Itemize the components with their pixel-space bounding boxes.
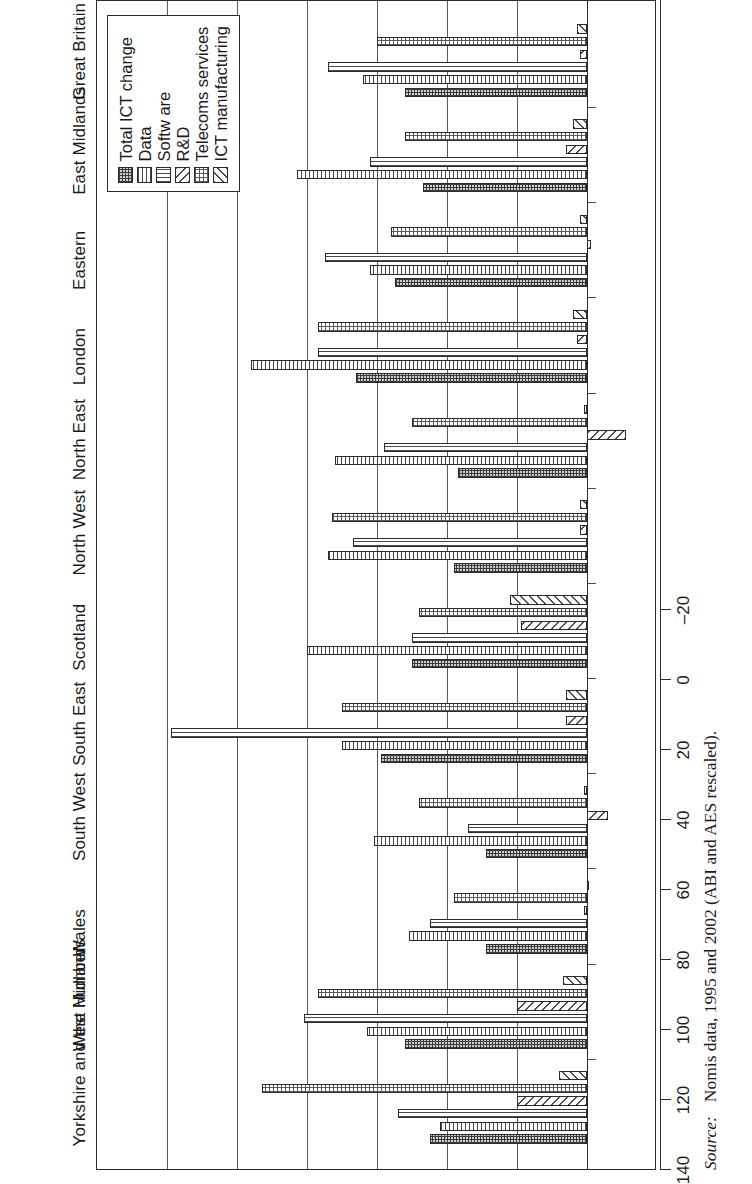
- bar: [566, 716, 587, 725]
- bar: [405, 1039, 587, 1048]
- bar: [332, 513, 588, 522]
- bar: [517, 1096, 587, 1105]
- bar-group: [97, 394, 655, 489]
- bar-group: [97, 870, 655, 965]
- group-separator-tick: [587, 964, 596, 965]
- axis-tick: [660, 1099, 671, 1100]
- bar: [577, 24, 588, 33]
- bar: [566, 145, 587, 154]
- bar: [486, 849, 588, 858]
- category-label: North West: [70, 490, 90, 576]
- bar: [430, 1134, 588, 1143]
- bar: [587, 811, 608, 820]
- group-separator-tick: [587, 393, 596, 394]
- axis-tick-label: 20: [674, 741, 694, 760]
- bar: [297, 170, 588, 179]
- bar: [584, 906, 588, 915]
- legend-swatch-icon: [194, 167, 209, 183]
- category-label: Great Britain: [70, 3, 90, 100]
- bar: [440, 1122, 587, 1131]
- bar-group: [97, 203, 655, 298]
- axis-tick: [660, 959, 671, 960]
- legend-swatch-icon: [213, 167, 228, 183]
- bar: [580, 50, 587, 59]
- category-label: Wales: [70, 909, 90, 956]
- group-separator-tick: [587, 678, 596, 679]
- legend-swatch-icon: [118, 167, 133, 183]
- bar: [573, 310, 587, 319]
- legend-item: Telecoms services: [194, 26, 211, 183]
- legend-item: R&D: [175, 26, 192, 183]
- legend-swatch-icon: [175, 167, 190, 183]
- bar: [318, 322, 588, 331]
- bar: [587, 881, 589, 890]
- bar: [381, 754, 588, 763]
- bar: [587, 430, 626, 439]
- bar: [510, 595, 587, 604]
- bar: [566, 690, 587, 699]
- legend-swatch-icon: [137, 167, 152, 183]
- category-label: East Midlands: [70, 87, 90, 195]
- bar: [328, 551, 587, 560]
- axis-tick-label: 40: [674, 811, 694, 830]
- legend-label: Total ICT change: [118, 37, 135, 161]
- bar: [391, 227, 587, 236]
- bar: [412, 659, 587, 668]
- group-separator-tick: [587, 583, 596, 584]
- bar: [335, 456, 587, 465]
- bar: [559, 1071, 587, 1080]
- bar: [377, 37, 587, 46]
- bar: [409, 931, 588, 940]
- category-label: South East: [70, 682, 90, 766]
- bar: [430, 919, 588, 928]
- category-label: Eastern: [70, 231, 90, 290]
- bar: [454, 563, 587, 572]
- bar-group: [97, 584, 655, 679]
- bar-group: [97, 679, 655, 774]
- axis-tick-label: 60: [674, 881, 694, 900]
- bar: [353, 538, 588, 547]
- bar: [395, 278, 588, 287]
- bar: [580, 215, 587, 224]
- axis-tick: [660, 889, 671, 890]
- legend-swatch-icon: [156, 167, 171, 183]
- category-labels: Yorkshire and the HumberWest MidlandsWal…: [0, 0, 92, 1170]
- axis-tick-label: 100: [674, 1016, 694, 1044]
- category-label: Scotland: [70, 604, 90, 671]
- bar: [370, 157, 587, 166]
- category-label: North East: [70, 399, 90, 480]
- plot-frame: Total ICT changeDataSoftw areR&DTelecoms…: [96, 0, 656, 1170]
- bar: [405, 132, 587, 141]
- category-label: South West: [70, 772, 90, 861]
- bar: [398, 1109, 587, 1118]
- bar: [412, 633, 587, 642]
- bar: [423, 183, 588, 192]
- axis-tick: [660, 679, 671, 680]
- bar-group: [97, 1060, 655, 1155]
- bar: [587, 240, 591, 249]
- bar: [580, 525, 587, 534]
- bar: [573, 119, 587, 128]
- bar: [419, 798, 587, 807]
- bar: [577, 335, 588, 344]
- bar: [584, 405, 588, 414]
- bar: [486, 944, 588, 953]
- bar: [356, 373, 587, 382]
- group-separator-tick: [587, 107, 596, 108]
- bar: [342, 703, 587, 712]
- source-label: Source:: [700, 1116, 720, 1170]
- axis-tick-label: –20: [674, 596, 694, 624]
- bar: [405, 88, 587, 97]
- bar: [563, 976, 588, 985]
- bar: [370, 265, 587, 274]
- bar: [517, 1001, 587, 1010]
- legend-item: Softw are: [156, 26, 173, 183]
- group-separator-tick: [587, 869, 596, 870]
- bar: [412, 418, 587, 427]
- bar: [325, 253, 588, 262]
- source-text: Nomis data, 1995 and 2002 (ABI and AES r…: [700, 731, 720, 1102]
- bar: [458, 468, 588, 477]
- legend-item: Total ICT change: [118, 26, 135, 183]
- bar: [171, 728, 588, 737]
